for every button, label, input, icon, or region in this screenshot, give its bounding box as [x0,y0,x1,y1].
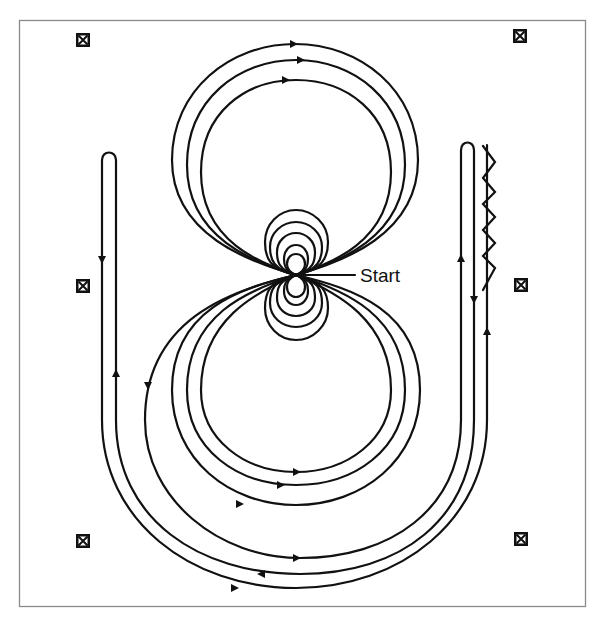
boxed-x-icon [514,278,528,292]
zigzag-segment [483,146,495,290]
trajectory-diagram: Start [0,0,604,621]
boxed-x-icon [514,532,528,546]
start-label: Start [360,265,401,286]
lower-large-loops [172,275,420,508]
upper-large-loops [172,40,418,275]
boxed-x-icon [513,29,527,43]
diagram-frame [20,21,586,607]
upper-small-loops [265,210,328,275]
boxed-x-icon [76,534,90,548]
boxed-x-icon [76,33,90,47]
boxed-x-icon [76,279,90,293]
